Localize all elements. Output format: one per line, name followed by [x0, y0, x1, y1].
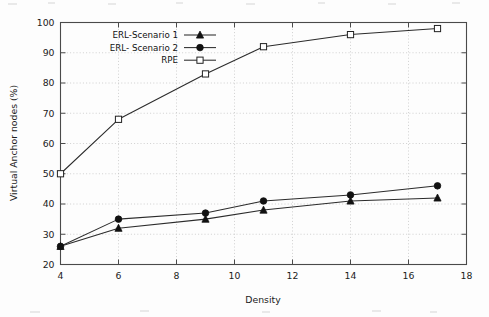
- legend-label: RPE: [161, 55, 178, 65]
- legend-label: ERL- Scenario 2: [110, 43, 178, 53]
- x-tick-label: 18: [461, 270, 473, 281]
- legend-marker: [197, 57, 203, 63]
- y-tick-label: 50: [43, 168, 55, 179]
- x-tick-label: 10: [229, 270, 241, 281]
- data-point-marker: [260, 198, 267, 205]
- data-point-marker: [347, 192, 354, 199]
- tick-label-layer: 20304050607080901004681012141618: [37, 17, 473, 281]
- data-series-1: [57, 194, 441, 249]
- chart-figure: 20304050607080901004681012141618 Density…: [0, 0, 489, 317]
- x-tick-label: 6: [116, 270, 122, 281]
- data-series-2: [57, 183, 441, 250]
- x-tick-label: 14: [345, 270, 357, 281]
- x-tick-label: 12: [287, 270, 299, 281]
- y-tick-label: 60: [43, 138, 55, 149]
- y-tick-label: 30: [43, 229, 55, 240]
- data-point-marker: [202, 210, 209, 217]
- legend-marker: [197, 44, 204, 51]
- chart-legend: ERL-Scenario 1ERL- Scenario 2RPE: [110, 30, 216, 65]
- data-point-marker: [260, 44, 266, 50]
- data-point-marker: [115, 116, 121, 122]
- y-tick-label: 40: [43, 198, 55, 209]
- y-axis-title: Virtual Anchor nodes (%): [8, 85, 19, 201]
- legend-label: ERL-Scenario 1: [113, 30, 178, 40]
- x-tick-label: 16: [403, 270, 415, 281]
- x-tick-label: 8: [174, 270, 180, 281]
- data-point-marker: [347, 32, 353, 38]
- series-layer: [57, 25, 441, 249]
- data-point-marker: [57, 243, 64, 250]
- line-chart-plot: 20304050607080901004681012141618 Density…: [0, 0, 489, 317]
- y-tick-label: 90: [43, 47, 55, 58]
- y-tick-label: 80: [43, 77, 55, 88]
- data-point-marker: [434, 25, 440, 31]
- data-point-marker: [202, 71, 208, 77]
- y-tick-label: 70: [43, 108, 55, 119]
- x-axis-title: Density: [245, 294, 281, 305]
- data-point-marker: [115, 216, 122, 223]
- data-point-marker: [434, 183, 441, 190]
- y-tick-label: 20: [43, 259, 55, 270]
- data-point-marker: [57, 171, 63, 177]
- x-tick-label: 4: [58, 270, 64, 281]
- y-tick-label: 100: [37, 17, 55, 28]
